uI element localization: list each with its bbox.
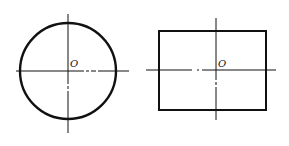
rectangle-center-label: O <box>218 58 226 69</box>
rectangle-figure: O <box>146 18 276 120</box>
diagram-canvas: O O <box>0 0 289 146</box>
circle-figure: O <box>16 14 129 133</box>
circle-center-label: O <box>70 58 78 69</box>
